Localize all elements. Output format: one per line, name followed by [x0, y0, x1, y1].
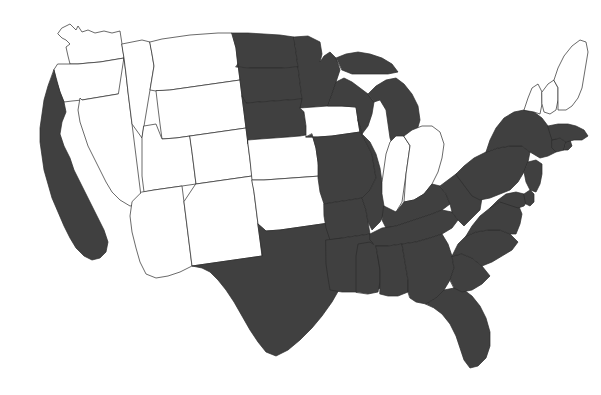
- states-layer: WashingtonOregonCaliforniaNevadaIdahoMon…: [40, 24, 588, 368]
- state-fl[interactable]: Florida: [426, 288, 490, 368]
- state-vt[interactable]: Vermont: [524, 84, 542, 114]
- state-wa[interactable]: Washington: [58, 24, 124, 64]
- us-choropleth-map-page: WashingtonOregonCaliforniaNevadaIdahoMon…: [0, 0, 601, 395]
- state-nh[interactable]: New Hampshire: [542, 80, 558, 114]
- state-mi[interactable]: Michigan: [336, 52, 398, 74]
- us-map-canvas: WashingtonOregonCaliforniaNevadaIdahoMon…: [0, 0, 601, 395]
- state-ma[interactable]: Massachusetts: [548, 124, 588, 142]
- state-ks[interactable]: Kansas: [248, 134, 320, 180]
- state-sd[interactable]: South Dakota: [236, 64, 302, 103]
- state-co[interactable]: Colorado: [190, 128, 252, 184]
- state-nm[interactable]: New Mexico: [184, 176, 262, 266]
- state-ar[interactable]: Arkansas: [324, 198, 370, 240]
- state-nj[interactable]: New Jersey: [524, 160, 542, 192]
- state-me[interactable]: Maine: [554, 40, 588, 110]
- state-ia[interactable]: Iowa: [300, 106, 360, 137]
- state-az[interactable]: Arizona: [130, 186, 192, 278]
- state-nd[interactable]: North Dakota: [232, 33, 298, 68]
